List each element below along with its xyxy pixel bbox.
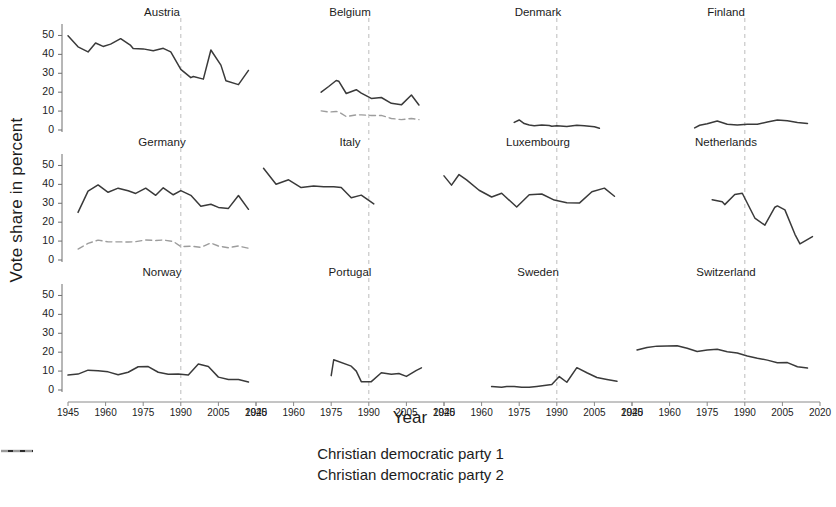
- x-tick-label: 1975: [123, 407, 163, 418]
- x-tick-label: 1990: [537, 407, 577, 418]
- x-tick-label: 1945: [48, 407, 88, 418]
- x-tick-label: 1945: [612, 407, 652, 418]
- x-axis-label: Year: [290, 408, 530, 428]
- x-tick-label: 1990: [725, 407, 765, 418]
- series-line-italy-party-1: [264, 168, 374, 204]
- x-tick-label: 2020: [800, 407, 836, 418]
- series-line-norway-party-1: [68, 364, 248, 382]
- series-line-luxembourg-party-1: [444, 175, 614, 208]
- legend-label-party-1: Christian democratic party 1: [317, 445, 504, 462]
- y-tick-label: 50: [20, 28, 54, 40]
- y-tick-label: 10: [20, 234, 54, 246]
- panel-title-netherlands: Netherlands: [592, 136, 836, 148]
- x-tick-label: 1960: [86, 407, 126, 418]
- y-tick-label: 40: [20, 47, 54, 59]
- x-tick-label: 1975: [687, 407, 727, 418]
- y-tick-label: 50: [20, 288, 54, 300]
- series-line-switzerland-party-1: [637, 346, 807, 368]
- chart-legend: Christian democratic party 1 Christian d…: [0, 445, 821, 483]
- x-tick-label: 1990: [161, 407, 201, 418]
- legend-item-party-1: Christian democratic party 1: [317, 445, 504, 462]
- x-tick-label: 1945: [236, 407, 276, 418]
- y-tick-label: 40: [20, 307, 54, 319]
- legend-label-party-2: Christian democratic party 2: [317, 466, 504, 483]
- series-line-austria-party-1: [68, 36, 248, 85]
- y-tick-label: 10: [20, 104, 54, 116]
- y-tick-label: 20: [20, 345, 54, 357]
- x-tick-label: 2005: [762, 407, 802, 418]
- x-tick-label: 1960: [650, 407, 690, 418]
- legend-item-party-2: Christian democratic party 2: [317, 466, 504, 483]
- y-tick-label: 20: [20, 85, 54, 97]
- series-line-belgium-party-2: [321, 111, 419, 120]
- y-tick-label: 30: [20, 66, 54, 78]
- series-line-germany-party-1: [78, 185, 248, 212]
- y-tick-label: 40: [20, 177, 54, 189]
- y-tick-label: 30: [20, 326, 54, 338]
- x-tick-label: 2005: [198, 407, 238, 418]
- y-tick-label: 0: [20, 123, 54, 135]
- panel-title-finland: Finland: [592, 6, 836, 18]
- y-tick-label: 0: [20, 253, 54, 265]
- y-tick-label: 10: [20, 364, 54, 376]
- y-tick-label: 30: [20, 196, 54, 208]
- y-tick-label: 20: [20, 215, 54, 227]
- series-line-germany-party-2: [78, 240, 248, 249]
- series-line-sweden-party-1: [492, 368, 617, 388]
- y-tick-label: 0: [20, 383, 54, 395]
- series-line-portugal-party-1: [331, 360, 421, 382]
- series-line-netherlands-party-1: [712, 193, 812, 244]
- legend-key-dashed-line: [0, 445, 34, 457]
- panel-title-switzerland: Switzerland: [592, 266, 836, 278]
- y-tick-label: 50: [20, 158, 54, 170]
- series-line-belgium-party-1: [321, 80, 419, 105]
- series-line-finland-party-1: [695, 120, 808, 128]
- x-tick-label: 2005: [574, 407, 614, 418]
